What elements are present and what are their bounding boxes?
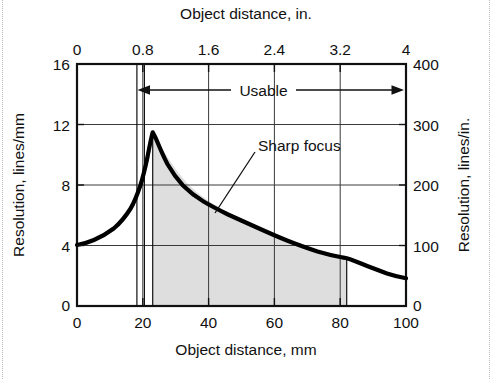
sharp-focus-leader-line: [215, 152, 255, 213]
left-axis-title: Resolution, lines/mm: [10, 113, 27, 257]
bottom-tick-label-80: 80: [332, 314, 350, 331]
usable-arrowhead-right: [392, 85, 405, 94]
bottom-tick-label-60: 60: [266, 314, 284, 331]
left-tick-label-8: 8: [61, 177, 70, 194]
top-tick-label-2.4: 2.4: [264, 41, 286, 58]
bottom-tick-label-20: 20: [134, 314, 152, 331]
left-tick-label-16: 16: [53, 56, 70, 73]
top-tick-label-0: 0: [73, 41, 82, 58]
sharp-focus-shaded-region: [153, 132, 347, 306]
right-tick-label-400: 400: [413, 56, 439, 73]
right-tick-label-200: 200: [413, 177, 439, 194]
bottom-tick-label-100: 100: [393, 314, 419, 331]
right-axis-title: Resolution, lines/in.: [455, 118, 472, 252]
left-tick-label-12: 12: [53, 117, 70, 134]
right-tick-label-300: 300: [413, 117, 439, 134]
bottom-tick-label-0: 0: [73, 314, 82, 331]
top-tick-label-4: 4: [402, 41, 411, 58]
sharp-focus-label: Sharp focus: [258, 137, 341, 154]
top-tick-label-1.6: 1.6: [198, 41, 220, 58]
left-tick-label-4: 4: [61, 238, 70, 255]
usable-label: Usable: [239, 82, 287, 99]
top-tick-label-0.8: 0.8: [132, 41, 154, 58]
right-tick-label-0: 0: [413, 297, 422, 314]
right-tick-label-100: 100: [413, 238, 439, 255]
top-tick-label-3.2: 3.2: [329, 41, 351, 58]
resolution-vs-object-distance-figure: Object distance, in. 0 0.8 1.6 2.4 3.2 4…: [0, 0, 492, 379]
chart-svg: Object distance, in. 0 0.8 1.6 2.4 3.2 4…: [0, 0, 492, 379]
left-tick-label-0: 0: [61, 297, 70, 314]
bottom-tick-label-40: 40: [200, 314, 218, 331]
top-axis-title: Object distance, in.: [180, 5, 312, 22]
usable-arrowhead-left: [138, 85, 151, 94]
bottom-axis-title: Object distance, mm: [175, 341, 316, 358]
